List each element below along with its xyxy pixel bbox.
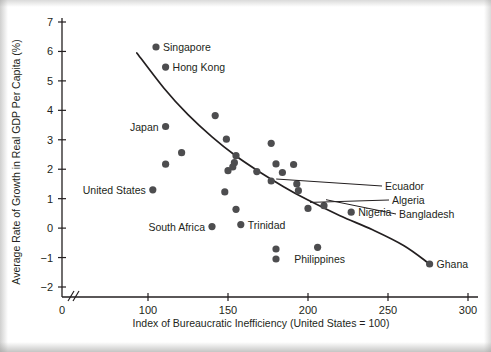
- x-tick-label: 250: [379, 304, 397, 316]
- data-point-nigeria: [348, 209, 355, 216]
- data-point-japan: [162, 123, 169, 130]
- y-tick-label: 1: [47, 193, 53, 205]
- point-label-bangladesh: Bangladesh: [399, 208, 455, 220]
- data-point-unlabeled: [279, 169, 286, 176]
- data-point-unlabeled: [295, 187, 302, 194]
- y-tick-label: 0: [47, 222, 53, 234]
- data-point-unlabeled: [178, 149, 185, 156]
- data-point-unlabeled: [272, 245, 279, 252]
- chart-figure: −2−101234567 0100150200250300 SingaporeH…: [0, 0, 491, 352]
- data-point-philippines: [314, 244, 321, 251]
- x-tick-label: 300: [459, 304, 477, 316]
- y-tick-label: 2: [47, 163, 53, 175]
- data-point-trinidad: [237, 221, 244, 228]
- data-point-bangladesh: [320, 202, 327, 209]
- x-tick-label: 100: [139, 304, 157, 316]
- point-label-united-states: United States: [83, 184, 146, 196]
- data-point-labels: SingaporeHong KongJapanUnited StatesSout…: [83, 41, 469, 270]
- y-tick-label: 4: [47, 104, 53, 116]
- y-tick-label: 3: [47, 134, 53, 146]
- data-point-south-africa: [208, 223, 215, 230]
- y-tick-label: −2: [40, 281, 53, 293]
- data-point-unlabeled: [224, 167, 231, 174]
- x-tick-label: 150: [219, 304, 237, 316]
- x-tick-label: 200: [299, 304, 317, 316]
- scatter-plot-canvas: −2−101234567 0100150200250300 SingaporeH…: [0, 0, 491, 352]
- data-point-hong-kong: [162, 64, 169, 71]
- axis-break-slash-2: [73, 291, 79, 301]
- y-tick-label: 5: [47, 75, 53, 87]
- y-tick-label: 6: [47, 45, 53, 57]
- data-point-unlabeled: [272, 160, 279, 167]
- data-point-singapore: [152, 43, 159, 50]
- data-point-unlabeled: [212, 112, 219, 119]
- data-point-ecuador: [268, 177, 275, 184]
- data-point-unlabeled: [223, 136, 230, 143]
- x-tick-label: 0: [59, 304, 65, 316]
- data-point-unlabeled: [253, 168, 260, 175]
- data-point-unlabeled: [232, 206, 239, 213]
- point-label-ghana: Ghana: [437, 258, 469, 270]
- point-label-philippines: Philippines: [294, 253, 345, 265]
- data-point-unlabeled: [232, 152, 239, 159]
- leader-line-ecuador: [276, 179, 382, 186]
- data-point-unlabeled: [293, 180, 300, 187]
- point-label-ecuador: Ecuador: [385, 180, 425, 192]
- data-point-unlabeled: [290, 161, 297, 168]
- point-label-hong-kong: Hong Kong: [173, 61, 226, 73]
- data-point-unlabeled: [221, 188, 228, 195]
- leader-line-algeria: [310, 200, 389, 202]
- y-tick-label: 7: [47, 16, 53, 28]
- data-point-algeria: [304, 205, 311, 212]
- data-point-ghana: [426, 260, 433, 267]
- axis-break-slash-1: [68, 291, 74, 301]
- point-label-singapore: Singapore: [163, 41, 211, 53]
- data-point-united-states: [149, 186, 156, 193]
- y-tick-label: −1: [40, 252, 53, 264]
- data-point-unlabeled: [162, 161, 169, 168]
- axes: [62, 18, 478, 301]
- data-point-unlabeled: [268, 140, 275, 147]
- point-label-algeria: Algeria: [392, 194, 425, 206]
- point-label-nigeria: Nigeria: [358, 206, 391, 218]
- point-label-japan: Japan: [130, 121, 159, 133]
- data-point-unlabeled: [272, 255, 279, 262]
- data-points: [149, 43, 433, 267]
- y-axis-title: Average Rate of Growth in Real GDP Per C…: [10, 39, 22, 284]
- point-label-trinidad: Trinidad: [248, 219, 286, 231]
- x-axis-title: Index of Bureaucratic Inefficiency (Unit…: [133, 317, 390, 329]
- point-label-south-africa: South Africa: [148, 221, 205, 233]
